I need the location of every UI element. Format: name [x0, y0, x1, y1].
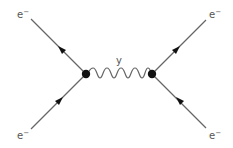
vertex-right	[148, 70, 156, 78]
feynman-diagram: e− e− e− e− y	[0, 0, 233, 148]
label-bottom-right: e−	[209, 129, 221, 141]
fermion-line-top-right	[152, 20, 206, 74]
arrow-icon	[176, 97, 184, 105]
label-top-right: e−	[209, 8, 221, 20]
photon-propagator	[86, 68, 152, 78]
vertex-left	[82, 70, 90, 78]
fermion-line-bottom-right	[152, 74, 206, 128]
label-photon: y	[116, 55, 122, 66]
label-top-left: e−	[17, 8, 29, 20]
fermion-line-top-left	[31, 19, 86, 74]
label-bottom-left: e−	[17, 129, 29, 141]
fermion-line-bottom-left	[31, 74, 86, 129]
